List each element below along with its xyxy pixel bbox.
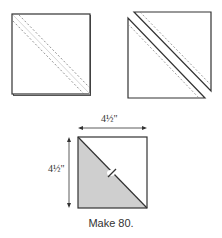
height-dimension-arrow [67,137,71,208]
arrow-down-icon [67,203,71,208]
width-dimension-arrow [78,126,147,130]
figure-finished-unit [67,126,147,208]
figure-layered-square [12,14,91,96]
width-label: 4½" [101,113,118,124]
arrow-up-icon [67,137,71,142]
arrow-right-icon [142,126,147,130]
height-label: 4½" [48,163,65,174]
make-count-caption: Make 80. [0,217,222,229]
figure-cut-triangles [128,12,211,98]
arrow-left-icon [78,126,83,130]
